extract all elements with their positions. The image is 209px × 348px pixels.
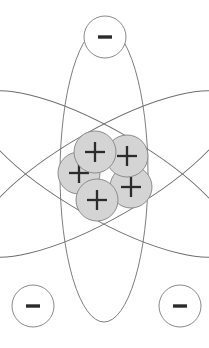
nucleus — [58, 131, 152, 221]
proton-bottom-left — [76, 179, 118, 221]
atom-diagram-canvas — [0, 0, 209, 348]
atom-diagram — [0, 0, 209, 348]
proton-top-left — [74, 131, 116, 173]
electron-group — [12, 16, 201, 327]
electron-bottom-right — [159, 285, 201, 327]
orbit-group — [0, 26, 209, 322]
electron-bottom-left — [12, 285, 54, 327]
electron-top — [84, 16, 126, 58]
